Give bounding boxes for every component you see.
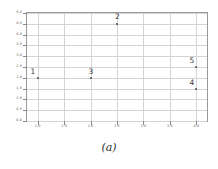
y-tick-mark	[23, 13, 27, 14]
x-tick-label: 1.5	[61, 125, 67, 128]
gridline-vertical	[38, 13, 39, 121]
y-tick-mark	[23, 110, 27, 111]
x-tick-label: 3.0	[141, 125, 147, 128]
data-point-marker	[195, 66, 197, 68]
gridline-vertical	[170, 13, 171, 121]
data-point-label: 2	[115, 13, 120, 21]
y-tick-label: 5.0	[16, 11, 22, 14]
gridline-vertical	[64, 13, 65, 121]
figure-caption: (a)	[0, 141, 218, 154]
y-tick-mark	[23, 56, 27, 57]
y-tick-mark	[23, 67, 27, 68]
y-tick-mark	[23, 99, 27, 100]
y-tick-label: 0.5	[16, 108, 22, 111]
y-tick-label: 3.0	[16, 54, 22, 57]
data-point-label: 4	[189, 79, 194, 87]
data-point-label: 3	[89, 68, 94, 76]
data-point-marker	[116, 23, 118, 25]
gridline-vertical	[117, 13, 118, 121]
plot-frame: 0.00.51.01.52.02.53.03.54.04.55.0 1.01.5…	[26, 12, 208, 122]
data-point-marker	[195, 88, 197, 90]
y-tick-label: 1.5	[16, 87, 22, 90]
x-tick-label: 2.0	[88, 125, 94, 128]
y-tick-mark	[23, 45, 27, 46]
x-tick-label: 1.0	[35, 125, 41, 128]
data-point-label: 5	[189, 57, 194, 65]
y-tick-mark	[23, 89, 27, 90]
y-tick-mark	[23, 35, 27, 36]
y-tick-label: 4.5	[16, 22, 22, 25]
y-tick-label: 0.0	[16, 119, 22, 122]
x-tick-label: 4.0	[194, 125, 200, 128]
gridline-vertical	[143, 13, 144, 121]
y-tick-mark	[23, 78, 27, 79]
y-tick-label: 1.0	[16, 98, 22, 101]
y-tick-label: 2.0	[16, 76, 22, 79]
x-tick-label: 2.5	[114, 125, 120, 128]
y-tick-label: 3.5	[16, 44, 22, 47]
data-point-marker	[90, 77, 92, 79]
y-tick-mark	[23, 24, 27, 25]
plot-wrapper: 0.00.51.01.52.02.53.03.54.04.55.0 1.01.5…	[0, 0, 218, 133]
y-tick-label: 4.0	[16, 33, 22, 36]
figure-panel: 0.00.51.01.52.02.53.03.54.04.55.0 1.01.5…	[0, 0, 218, 169]
data-point-label: 1	[31, 68, 36, 76]
y-tick-label: 2.5	[16, 65, 22, 68]
x-tick-label: 3.5	[167, 125, 173, 128]
data-point-marker	[37, 77, 39, 79]
y-tick-mark	[23, 121, 27, 122]
